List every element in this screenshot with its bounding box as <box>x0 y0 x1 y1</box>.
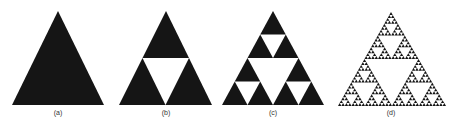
panel-b-label: (b) <box>162 109 171 116</box>
panel-a-triangle <box>12 11 104 105</box>
panel-d-triangle <box>338 12 446 106</box>
sierpinski-figure <box>0 0 451 123</box>
panel-c-label: (c) <box>269 109 277 116</box>
panel-b-triangle <box>119 11 212 105</box>
panel-d-label: (d) <box>387 109 396 116</box>
panel-a-label: (a) <box>54 109 63 116</box>
panel-c-triangle <box>222 11 324 105</box>
